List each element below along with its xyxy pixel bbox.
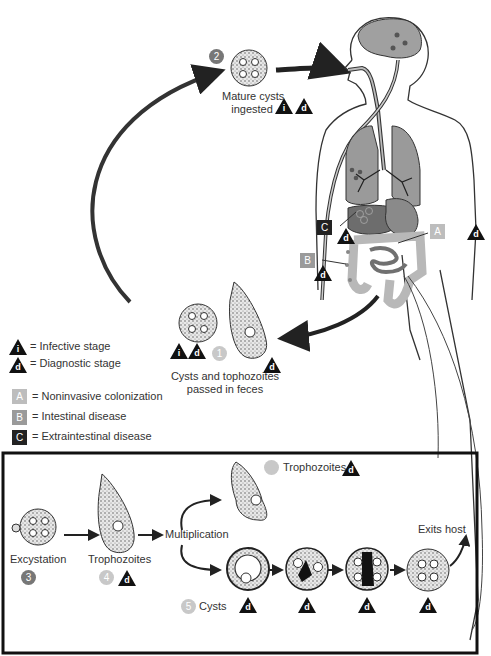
legend-diagnostic-marker: d [9,357,27,373]
human-body-outline [316,18,478,640]
step-2-label-line1: Mature cysts [222,90,282,102]
cyst-in-feces [179,304,217,342]
diagnostic-stage-marker: d [419,597,437,613]
legend-A-text: = Noninvasive colonization [32,390,163,402]
step-5-badge: 5 [181,599,196,614]
legend-C-text: = Extraintestinal disease [32,430,152,442]
diagnostic-stage-marker: d [239,597,257,613]
step-2-label-line2: ingested [222,103,282,115]
diagnostic-stage-marker: d [337,228,355,244]
arrow-to-feces [285,296,378,338]
step-1-label-line1: Cysts and tophozoites [155,370,295,382]
small-intestine [370,248,406,272]
label-C-extraintestinal: C [317,220,332,235]
mature-cyst-ingested [231,50,267,86]
trophozoites-badge [264,460,279,475]
legend-infective-text: = Infective stage [30,340,110,352]
step-3-badge: 3 [21,570,36,585]
trophozoite-in-feces [230,282,267,358]
diagnostic-stage-marker: d [342,460,360,476]
label-B-intestinal: B [300,253,315,268]
cycle-arrow-left [92,72,218,302]
trophozoites-label: Trophozoites [283,461,346,473]
cyst-stage-uninucleate [227,548,269,590]
cyst-stage-binucleate [286,548,328,590]
label-A-noninvasive: A [430,224,445,239]
diagnostic-stage-marker: d [295,98,313,114]
arrow-to-mouth [276,68,342,70]
diagnostic-stage-marker: d [118,570,136,586]
colon [352,236,422,304]
excystation-label: Excystation [10,553,66,565]
excystation-cyst [12,509,56,545]
legend-diagnostic-text: = Diagnostic stage [30,357,121,369]
diagnostic-stage-marker: d [358,597,376,613]
right-lung [392,126,420,206]
brain [358,19,421,58]
trophozoites-stage-4-label: Trophozoites [88,553,151,565]
diagnostic-stage-marker: d [314,265,332,281]
step-2-badge: 2 [209,49,224,64]
legend-C-square: C [12,430,27,445]
legend-B-square: B [12,410,27,425]
diagnostic-stage-marker: d [298,597,316,613]
step-1-badge: 1 [212,346,227,361]
infective-stage-marker: i [170,343,188,359]
diagnostic-stage-marker: d [188,343,206,359]
cysts-label: Cysts [199,600,227,612]
step-4-badge: 4 [99,570,114,585]
legend-B-text: = Intestinal disease [32,410,126,422]
left-lung [346,126,378,205]
legend-infective-marker: i [9,339,27,355]
cyst-stage-quadrinucleate [346,548,388,590]
multiplication-label: Multiplication [165,528,229,540]
step-1-label-line2: passed in feces [155,383,295,395]
legend-A-square: A [12,389,27,404]
exits-host-label: Exits host [418,523,466,535]
cyst-stage-mature [407,549,449,591]
trophozoite-stage-4 [98,474,134,553]
diagnostic-stage-marker: d [467,224,485,240]
trophozoite-multiplied [231,462,266,520]
